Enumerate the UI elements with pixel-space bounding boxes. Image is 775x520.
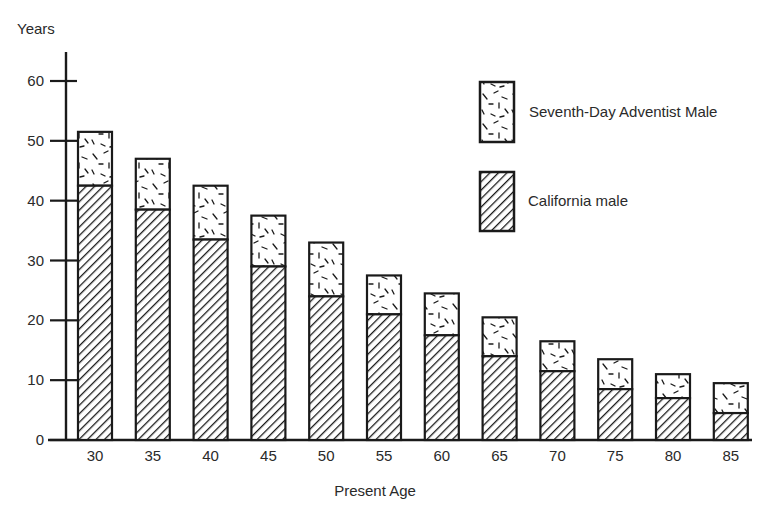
bar-age-55 [367, 275, 401, 440]
legend-item-adventist: Seventh-Day Adventist Male [480, 82, 717, 142]
bar-segment-california [483, 356, 517, 440]
bar-segment-adventist [251, 216, 285, 267]
bar-age-70 [540, 341, 574, 440]
bar-segment-adventist [309, 243, 343, 297]
x-tick-label: 85 [722, 447, 739, 464]
x-tick-label: 40 [202, 447, 219, 464]
x-tick-label: 80 [665, 447, 682, 464]
bar-segment-california [194, 240, 228, 440]
bar-segment-adventist [367, 275, 401, 314]
x-tick-label: 70 [549, 447, 566, 464]
bar-segment-adventist [540, 341, 574, 371]
x-tick-label: 55 [376, 447, 393, 464]
hatch-swatch-icon [480, 172, 514, 231]
bar-segment-adventist [425, 293, 459, 335]
x-axis-tick-labels: 303540455055606570758085 [87, 447, 739, 464]
bar-segment-california [656, 398, 690, 440]
x-tick-label: 60 [433, 447, 450, 464]
legend-label-california: California male [528, 192, 628, 209]
bar-age-60 [425, 293, 459, 440]
bar-age-35 [136, 159, 170, 440]
bar-segment-california [598, 389, 632, 440]
bar-age-80 [656, 374, 690, 440]
x-axis-title: Present Age [334, 482, 416, 499]
legend-item-california: California male [480, 172, 628, 231]
bar-age-45 [251, 216, 285, 440]
y-tick-label: 0 [36, 431, 44, 448]
bar-segment-adventist [136, 159, 170, 210]
bar-segment-california [251, 266, 285, 440]
bar-segment-california [425, 335, 459, 440]
y-tick-label: 10 [27, 371, 44, 388]
y-tick-label: 40 [27, 192, 44, 209]
legend: Seventh-Day Adventist Male California ma… [480, 82, 717, 231]
bar-segment-adventist [598, 359, 632, 389]
y-tick-label: 30 [27, 252, 44, 269]
bar-segment-california [136, 210, 170, 440]
bar-age-75 [598, 359, 632, 440]
x-tick-label: 30 [87, 447, 104, 464]
bar-segment-california [540, 371, 574, 440]
bar-age-40 [194, 186, 228, 440]
bar-series [78, 132, 748, 440]
bar-segment-california [309, 296, 343, 440]
bar-segment-adventist [656, 374, 690, 398]
x-tick-label: 50 [318, 447, 335, 464]
chart-canvas: Years 0102030405060 30354045505560657075… [0, 0, 775, 520]
bar-segment-adventist [714, 383, 748, 413]
bar-segment-california [78, 186, 112, 440]
y-tick-label: 60 [27, 72, 44, 89]
bar-segment-california [367, 314, 401, 440]
bar-segment-adventist [78, 132, 112, 186]
x-tick-label: 65 [491, 447, 508, 464]
bar-segment-california [714, 413, 748, 440]
bar-segment-adventist [194, 186, 228, 240]
bar-segment-adventist [483, 317, 517, 356]
y-tick-label: 50 [27, 132, 44, 149]
x-tick-label: 75 [607, 447, 624, 464]
x-tick-label: 45 [260, 447, 277, 464]
y-axis-title: Years [17, 20, 55, 37]
speckle-swatch-icon [480, 82, 514, 142]
y-tick-label: 20 [27, 311, 44, 328]
bar-age-30 [78, 132, 112, 440]
bar-age-50 [309, 243, 343, 440]
x-tick-label: 35 [144, 447, 161, 464]
bar-age-85 [714, 383, 748, 440]
legend-label-adventist: Seventh-Day Adventist Male [529, 103, 717, 120]
bar-age-65 [483, 317, 517, 440]
